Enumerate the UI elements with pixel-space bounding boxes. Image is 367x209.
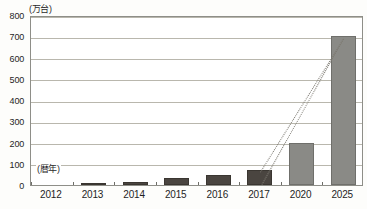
y-axis-tick-label: 200	[0, 139, 24, 149]
gridline	[31, 38, 362, 39]
x-axis-tick	[198, 182, 199, 186]
x-axis-label-2017: 2017	[238, 189, 280, 200]
x-axis-label-2013: 2013	[72, 189, 114, 200]
y-axis-tick-label: 400	[0, 96, 24, 106]
x-axis-label-2015: 2015	[155, 189, 197, 200]
bar-2017	[247, 170, 272, 185]
chart-container: (万台) 0100200300400500600700800 (暦年) 2012…	[0, 0, 367, 209]
y-axis-unit-label: (万台)	[29, 2, 52, 15]
gridline	[31, 59, 362, 60]
x-axis-tick	[114, 182, 115, 186]
x-axis-tick	[31, 182, 32, 186]
x-axis-label-2016: 2016	[197, 189, 239, 200]
bar-2013	[81, 183, 106, 185]
x-axis-label-2020: 2020	[280, 189, 322, 200]
x-axis-tick	[239, 182, 240, 186]
y-axis-tick-label: 700	[0, 32, 24, 42]
x-axis-label-2012: 2012	[30, 189, 72, 200]
bar-2015	[164, 178, 189, 185]
bar-2025	[331, 36, 356, 185]
y-axis-tick-label: 100	[0, 160, 24, 170]
y-axis-tick-label: 300	[0, 117, 24, 127]
y-axis-tick-label: 600	[0, 54, 24, 64]
x-axis-tick	[73, 182, 74, 186]
x-axis-label-2014: 2014	[113, 189, 155, 200]
bar-2014	[123, 182, 148, 185]
x-axis-tick	[322, 182, 323, 186]
y-axis-tick-label: 0	[0, 181, 24, 191]
y-axis-tick-label: 500	[0, 75, 24, 85]
x-axis-label-2025: 2025	[321, 189, 363, 200]
gridline	[31, 123, 362, 124]
x-axis-tick	[281, 182, 282, 186]
gridline	[31, 102, 362, 103]
gridline	[31, 17, 362, 18]
x-axis-unit-label: (暦年)	[36, 162, 61, 175]
bar-2020	[289, 143, 314, 186]
x-axis-tick	[156, 182, 157, 186]
bar-2016	[206, 175, 231, 185]
y-axis-tick-label: 800	[0, 11, 24, 21]
x-axis-labels: 20122013201420152016201720202025	[30, 189, 363, 205]
gridline	[31, 80, 362, 81]
plot-area	[30, 16, 363, 186]
